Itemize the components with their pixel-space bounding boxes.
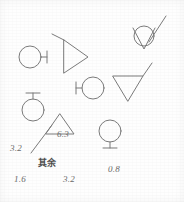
symbols-layer <box>0 0 184 202</box>
roughness-value-1-6: 1.6 <box>14 175 26 184</box>
circle-with-bottom-stem-symbol <box>99 120 121 148</box>
roughness-value-3-2-bottom: 3.2 <box>63 175 75 184</box>
roughness-value-6-3: 6.3 <box>57 130 69 139</box>
drawing-page: 6.3 3.2 其余 0.8 1.6 3.2 <box>0 0 184 202</box>
circle-with-right-stem-symbol <box>19 46 47 68</box>
down-pointing-triangle-symbol <box>113 63 152 101</box>
circle-with-top-stem-symbol <box>22 93 44 121</box>
roughness-value-0-8: 0.8 <box>108 165 120 174</box>
remainder-note-label: 其余 <box>38 159 56 168</box>
circle-with-left-stem-symbol <box>76 77 104 99</box>
circle-in-vee-symbol <box>133 16 166 49</box>
roughness-value-3-2-left: 3.2 <box>10 144 22 153</box>
right-pointing-triangle-symbol <box>52 34 88 73</box>
